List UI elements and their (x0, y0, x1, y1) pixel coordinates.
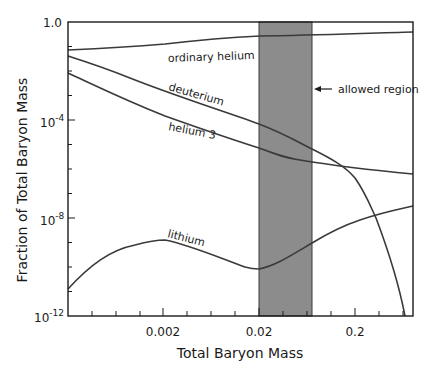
label-ordinary-helium: ordinary helium (168, 49, 255, 65)
x-tick-label-0.02: 0.02 (246, 325, 273, 339)
label-deuterium: deuterium (167, 80, 225, 108)
y-tick-label-1e-4: 10-4 (40, 113, 65, 130)
y-axis-ticks (68, 47, 75, 292)
y-tick-label-1e-12: 10-12 (34, 308, 64, 325)
label-allowed-region: allowed region (338, 83, 419, 96)
allowed-region-arrow-icon (314, 86, 332, 92)
abundance-chart: 1.0 10-4 10-8 10-12 0.002 0.02 0.2 Total… (0, 0, 429, 379)
y-tick-label-1e-8: 10-8 (40, 211, 65, 228)
x-tick-label-0.002: 0.002 (146, 325, 180, 339)
x-axis-title: Total Baryon Mass (176, 345, 304, 361)
x-axis-ticks (92, 308, 403, 316)
label-helium-3: helium 3 (167, 120, 217, 142)
allowed-region-band (259, 22, 312, 316)
curve-lithium (68, 206, 413, 289)
x-tick-label-0.2: 0.2 (345, 325, 364, 339)
y-axis-title: Fraction of Total Baryon Mass (14, 78, 30, 283)
y-tick-label-1: 1.0 (43, 16, 62, 30)
curve-ordinary-helium (68, 32, 413, 50)
